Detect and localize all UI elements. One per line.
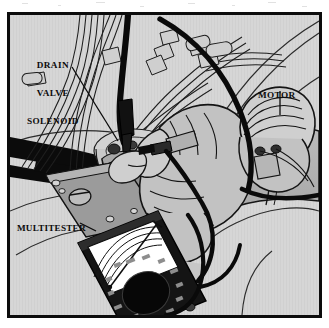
motor-mount-plate [254, 153, 280, 179]
illustration-frame: DRAIN VALVE SOLENOID MOTOR MULTITESTER [7, 12, 322, 318]
needle-pivot [108, 285, 112, 289]
scan-artifact-strip [0, 0, 329, 11]
illustration-artwork [10, 15, 319, 315]
illustration-page: DRAIN VALVE SOLENOID MOTOR MULTITESTER [0, 0, 329, 328]
